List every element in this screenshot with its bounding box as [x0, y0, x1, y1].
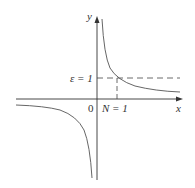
- curve-negative-branch: [16, 105, 92, 178]
- epsilon-label: ε = 1: [70, 72, 93, 84]
- hyperbola-diagram: y x 0 ε = 1 N = 1: [0, 0, 195, 188]
- curve-positive-branch: [102, 19, 180, 92]
- x-axis-label: x: [175, 102, 181, 114]
- y-axis-arrow-icon: [95, 16, 100, 23]
- n-label: N = 1: [101, 102, 128, 114]
- y-axis-label: y: [86, 10, 92, 22]
- x-axis-arrow-icon: [176, 97, 183, 102]
- origin-label: 0: [88, 102, 94, 114]
